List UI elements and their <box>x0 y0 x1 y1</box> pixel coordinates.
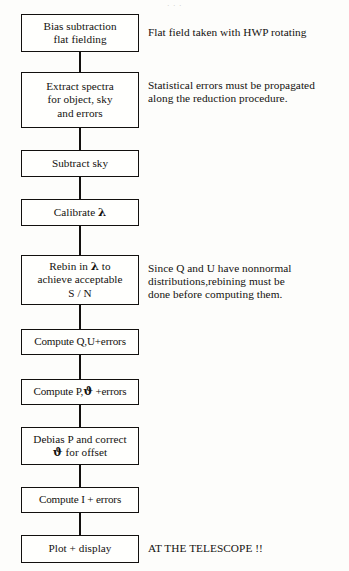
text-line: along the reduction procedure. <box>148 92 315 105</box>
flowchart-node-debias-p-correct-theta: Debias P and correctϑ for offset <box>21 427 139 465</box>
flowchart-node-compute-qu-errors: Compute Q,U+errors <box>21 329 139 355</box>
connector-c1 <box>79 52 81 72</box>
connector-c6 <box>79 355 81 379</box>
text-line: Compute P,ϑ +errors <box>33 385 126 398</box>
text-line: ϑ for offset <box>53 446 107 459</box>
text-line: Flat field taken with HWP rotating <box>148 26 306 39</box>
text-line: flat fielding <box>53 33 106 46</box>
flowchart-node-extract-spectra: Extract spectrafor object, skyand errors <box>21 72 139 128</box>
text-line: Since Q and U have nonnormal <box>148 262 292 275</box>
greek-symbol: ϑ <box>83 384 93 398</box>
flowchart-node-rebin-lambda: Rebin in λ toachieve acceptableS / N <box>21 255 139 305</box>
text-line: Plot + display <box>49 542 112 555</box>
flowchart-node-subtract-sky: Subtract sky <box>21 150 139 177</box>
text-line: Bias subtraction <box>43 20 116 33</box>
connector-c2 <box>79 128 81 150</box>
text-line: done before computing them. <box>148 288 292 301</box>
text-line: for object, sky <box>47 93 112 106</box>
text-line: S / N <box>68 287 91 300</box>
text-line: Extract spectra <box>46 80 114 93</box>
flowchart-node-compute-p-theta-errors: Compute P,ϑ +errors <box>21 379 139 405</box>
connector-c8 <box>79 465 81 487</box>
text-line: Statistical errors must be propagated <box>148 79 315 92</box>
flowchart-node-compute-i-errors: Compute I + errors <box>21 487 139 513</box>
text-line: Compute Q,U+errors <box>34 335 126 348</box>
annotation-note-flat-field: Flat field taken with HWP rotating <box>148 26 306 39</box>
annotation-note-at-the-telescope: AT THE TELESCOPE !! <box>148 542 263 555</box>
connector-c7 <box>79 405 81 427</box>
text-line: Rebin in λ to <box>49 260 110 273</box>
text-line: Subtract sky <box>52 157 108 170</box>
flowchart-node-calibrate-lambda: Calibrate λ <box>21 199 139 226</box>
connector-c4 <box>79 226 81 255</box>
text-line: Calibrate λ <box>54 206 107 219</box>
text-line: AT THE TELESCOPE !! <box>148 542 263 555</box>
greek-symbol: ϑ <box>53 445 63 459</box>
connector-c3 <box>79 177 81 199</box>
flowchart-node-bias-subtraction: Bias subtractionflat fielding <box>21 14 139 52</box>
text-line: Debias P and correct <box>33 433 126 446</box>
flowchart-canvas: Bias subtractionflat fieldingExtract spe… <box>0 0 349 571</box>
flowchart-node-plot-display: Plot + display <box>21 535 139 563</box>
connector-c9 <box>79 513 81 535</box>
text-line: and errors <box>57 107 103 120</box>
text-line: distributions,rebining must be <box>148 275 292 288</box>
text-line: Compute I + errors <box>39 493 121 506</box>
text-line: achieve acceptable <box>37 273 122 286</box>
connector-c5 <box>79 305 81 329</box>
greek-symbol: λ <box>91 259 99 273</box>
greek-symbol: λ <box>98 205 106 219</box>
annotation-note-nonnormal-distributions: Since Q and U have nonnormaldistribution… <box>148 262 292 302</box>
annotation-note-statistical-errors: Statistical errors must be propagatedalo… <box>148 79 315 105</box>
